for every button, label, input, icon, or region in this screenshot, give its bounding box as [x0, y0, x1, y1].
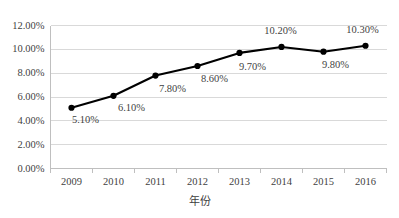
y-axis-tick-label: 12.00%: [0, 21, 45, 32]
data-point-marker: [362, 43, 368, 49]
x-axis-tick-marks: [51, 169, 387, 173]
y-axis-tick-label: 8.00%: [0, 68, 45, 79]
data-point-label: 8.60%: [190, 74, 240, 85]
data-point-marker: [236, 50, 242, 56]
data-point-label: 10.30%: [338, 25, 388, 36]
gridlines: [51, 26, 387, 169]
y-axis-tick-label: 10.00%: [0, 44, 45, 55]
data-point-label: 5.10%: [61, 115, 111, 126]
data-point-marker: [194, 63, 200, 69]
data-point-label: 10.20%: [256, 26, 306, 37]
data-point-marker: [320, 49, 326, 55]
y-axis-tick-label: 6.00%: [0, 92, 45, 103]
data-point-label: 9.70%: [228, 62, 278, 73]
data-point-marker: [152, 72, 158, 78]
y-axis-tick-label: 0.00%: [0, 164, 45, 175]
y-axis-tick-label: 2.00%: [0, 140, 45, 151]
data-point-marker: [68, 105, 74, 111]
data-point-label: 7.80%: [148, 84, 198, 95]
x-axis-tick-label: 2016: [341, 177, 391, 188]
line-chart: 0.00%2.00%4.00%6.00%8.00%10.00%12.00% 20…: [0, 0, 399, 218]
y-axis-tick-label: 4.00%: [0, 116, 45, 127]
x-axis-title: 年份: [0, 196, 399, 207]
data-point-marker: [110, 93, 116, 99]
data-point-label: 6.10%: [107, 103, 157, 114]
data-point-label: 9.80%: [311, 60, 361, 71]
data-point-marker: [278, 44, 284, 50]
